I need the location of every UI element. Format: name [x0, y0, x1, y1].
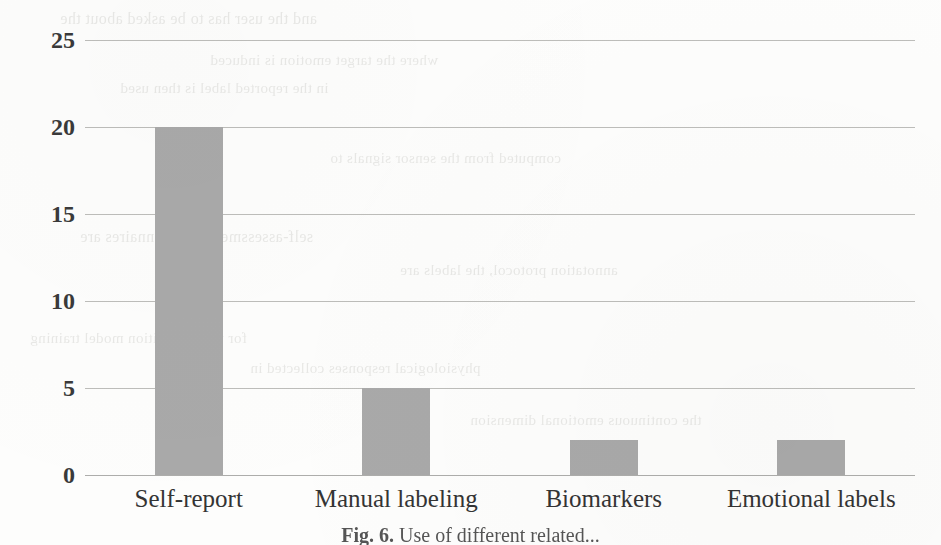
x-axis-labels: Self-reportManual labelingBiomarkersEmot…	[85, 484, 915, 518]
plot-area	[85, 40, 915, 475]
y-axis-tick-label: 15	[11, 202, 75, 226]
gridline	[85, 40, 915, 41]
gridline	[85, 475, 915, 476]
y-axis: 0510152025	[0, 40, 75, 475]
y-axis-tick-label: 25	[11, 28, 75, 52]
bar	[362, 388, 430, 475]
x-axis-category-label: Biomarkers	[500, 484, 708, 514]
x-axis-category-label: Emotional labels	[708, 484, 916, 514]
y-axis-tick-label: 0	[11, 463, 75, 487]
ghost-text-line: and the user has to be asked about the	[60, 10, 317, 28]
y-axis-tick-label: 20	[11, 115, 75, 139]
bar	[155, 127, 223, 475]
x-axis-category-label: Self-report	[85, 484, 293, 514]
bar	[570, 440, 638, 475]
caption-label: Fig. 6.	[341, 524, 394, 545]
bar	[777, 440, 845, 475]
y-axis-tick-label: 10	[11, 289, 75, 313]
y-axis-tick-label: 5	[11, 376, 75, 400]
figure-caption: Fig. 6. Use of different related...	[0, 524, 941, 545]
x-axis-category-label: Manual labeling	[293, 484, 501, 514]
figure-page: and the user has to be asked about the w…	[0, 0, 941, 545]
caption-text: Use of different related...	[394, 524, 600, 545]
